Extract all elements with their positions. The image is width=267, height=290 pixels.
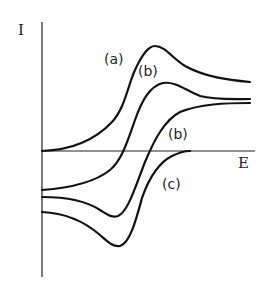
curve-b-upper bbox=[42, 83, 250, 190]
diagram-canvas: I E (a) (b) (b) (c) bbox=[0, 0, 267, 290]
label-curve-b-upper: (b) bbox=[138, 63, 158, 79]
y-axis-label: I bbox=[18, 21, 24, 39]
label-curve-b-lower: (b) bbox=[168, 126, 188, 142]
label-curve-a: (a) bbox=[104, 51, 124, 67]
x-axis-label: E bbox=[238, 154, 249, 172]
label-curve-c: (c) bbox=[162, 176, 181, 192]
curve-b-lower bbox=[42, 103, 250, 217]
voltammogram-diagram: I E (a) (b) (b) (c) bbox=[0, 0, 267, 290]
